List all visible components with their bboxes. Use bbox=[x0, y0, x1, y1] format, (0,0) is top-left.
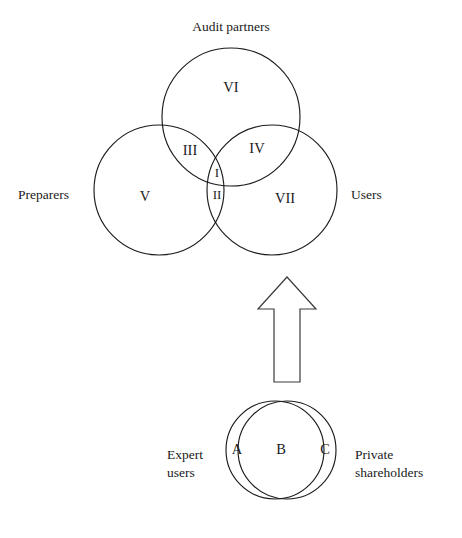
circle-preparers bbox=[94, 125, 224, 255]
set-label-expert-users: Expert users bbox=[167, 446, 203, 482]
venn-diagram-figure: VI III IV I II V VII A B C Audit partner… bbox=[0, 0, 462, 538]
region-label-b: B bbox=[276, 441, 286, 457]
region-label-a: A bbox=[232, 441, 243, 457]
set-label-private-shareholders: Private shareholders bbox=[355, 446, 423, 482]
region-label-i: I bbox=[215, 165, 219, 180]
circle-users bbox=[207, 125, 337, 255]
bottom-venn-group: A B C bbox=[226, 401, 336, 499]
up-arrow-icon bbox=[258, 277, 316, 382]
set-label-users: Users bbox=[351, 186, 382, 204]
region-label-ii: II bbox=[213, 187, 222, 202]
region-label-v: V bbox=[140, 188, 151, 204]
up-arrow-group bbox=[258, 277, 316, 382]
region-label-iv: IV bbox=[249, 140, 265, 156]
set-label-audit-partners: Audit partners bbox=[0, 18, 462, 36]
circle-audit-partners bbox=[162, 48, 300, 186]
set-label-preparers: Preparers bbox=[18, 186, 69, 204]
region-label-vi: VI bbox=[223, 79, 238, 95]
top-venn-group: VI III IV I II V VII bbox=[94, 48, 337, 255]
region-label-vii: VII bbox=[275, 190, 295, 206]
region-label-c: C bbox=[320, 441, 330, 457]
region-label-iii: III bbox=[183, 142, 198, 158]
